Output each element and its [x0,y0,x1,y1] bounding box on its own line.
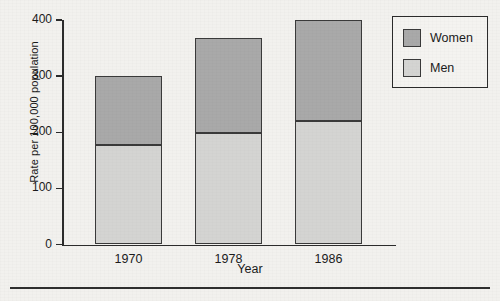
legend-swatch-women [403,29,421,47]
y-tick-300 [56,75,62,76]
y-tick-label-200: 200 [12,124,52,138]
x-axis-line [62,245,396,247]
bar-segment-men-1986 [295,121,362,244]
legend-box: Women Men [392,16,488,88]
y-tick-200 [56,132,62,133]
bar-segment-men-1970 [95,145,162,245]
y-tick-0 [56,244,62,245]
y-axis-line [62,20,64,246]
bar-segment-women-1978 [195,38,262,133]
x-axis-title: Year [0,262,500,276]
bar-segment-women-1970 [95,76,162,144]
legend-label-men: Men [430,61,454,75]
y-tick-label-0: 0 [12,237,52,251]
bottom-divider-rule [10,287,490,289]
legend-item-men: Men [403,59,454,77]
legend-label-women: Women [430,31,473,45]
plot-area: 0100200300400 197019781986 [62,20,396,246]
bar-1986 [295,20,362,245]
y-tick-100 [56,188,62,189]
legend-item-women: Women [403,29,473,47]
y-tick-label-400: 400 [12,12,52,26]
bar-1978 [195,38,262,245]
legend-swatch-men [403,59,421,77]
y-tick-400 [56,19,62,20]
y-tick-label-100: 100 [12,180,52,194]
bar-segment-women-1986 [295,20,362,121]
y-tick-label-300: 300 [12,68,52,82]
bar-segment-men-1978 [195,133,262,244]
bar-1970 [95,76,162,244]
bar-chart-figure: Rate per 100,000 population 010020030040… [0,0,500,301]
